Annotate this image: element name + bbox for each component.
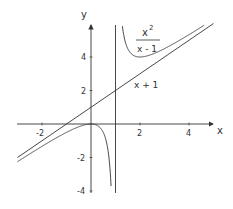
y-tick-label: -4 xyxy=(77,187,85,196)
x-axis-label: x xyxy=(217,125,223,136)
tick-labels: -224-4-224 xyxy=(36,53,191,196)
label-superscript: 2 xyxy=(149,24,153,32)
label-numerator: x xyxy=(142,27,148,38)
y-axis-label: y xyxy=(81,9,87,20)
axes: x y -224-4-224 xyxy=(17,9,223,196)
curve-left-branch xyxy=(18,124,112,186)
y-tick-label: 2 xyxy=(81,87,86,96)
x-tick-label: 4 xyxy=(186,129,191,138)
curve-right-branch xyxy=(122,25,204,57)
y-tick-label: 4 xyxy=(81,53,86,62)
label-fraction: x 2 x - 1 xyxy=(136,24,160,54)
y-tick-label: -2 xyxy=(77,154,85,163)
x-tick-label: 2 xyxy=(137,129,142,138)
label-denominator: x - 1 xyxy=(137,44,157,54)
x-tick-label: -2 xyxy=(36,129,44,138)
label-x-plus-1: x + 1 xyxy=(134,80,158,90)
chart: x y -224-4-224 x 2 x - 1 x + 1 xyxy=(0,0,233,209)
